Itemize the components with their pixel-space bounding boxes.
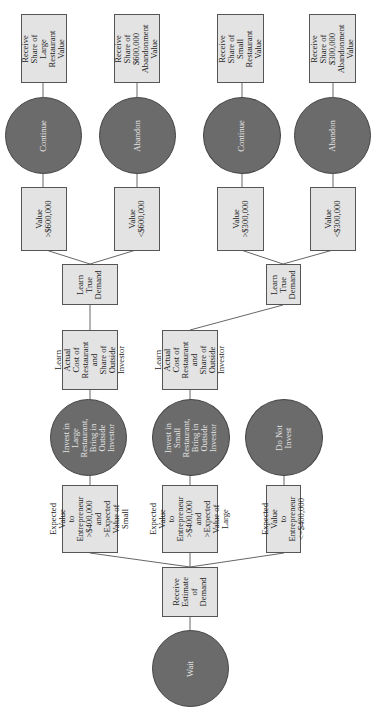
decision-label: Continue <box>237 120 246 152</box>
outcome-label: Receive Share of $300,000 Abandonment Va… <box>310 24 355 73</box>
outcome-600k-abandonment-value: Receive Share of $600,000 Abandonment Va… <box>114 14 160 83</box>
action-do-not-invest: Do Not Invest <box>245 399 323 476</box>
value-lt-600k: Value <$600,000 <box>114 187 160 251</box>
outcome-label: Receive Share of Large Restaurant Value <box>21 30 66 67</box>
learn-actual-cost-small: Learn Actual Cost of Restaurant and Shar… <box>162 330 218 390</box>
action-invest-large: Invest in Large Restaurant, Bring in Out… <box>50 399 127 476</box>
outcome-label: Receive Share of $600,000 Abandonment Va… <box>114 24 159 73</box>
info-label: Receive Estimate of Demand <box>172 577 208 607</box>
value-gt-600k: Value >$600,000 <box>21 187 67 251</box>
condition-label: Value >$300,000 <box>231 200 249 237</box>
decision-abandon-large: Abandon <box>99 97 176 174</box>
outcome-300k-abandonment-value: Receive Share of $300,000 Abandonment Va… <box>309 14 356 83</box>
condition-label: Value <$300,000 <box>324 200 342 237</box>
learn-true-demand-small: Learn True Demand <box>266 264 301 305</box>
action-invest-small: Invest in Small Restaurant, Bring in Out… <box>152 399 230 476</box>
root-label: Wait <box>186 660 195 676</box>
condition-label: Value >$600,000 <box>35 200 53 237</box>
decision-continue-large: Continue <box>5 97 82 174</box>
condition-label: Expected Value to Entrepreneur <=$400,00… <box>261 497 306 542</box>
learn-actual-cost-large: Learn Actual Cost of Restaurant and Shar… <box>62 330 118 390</box>
receive-estimate-of-demand: Receive Estimate of Demand <box>162 567 218 617</box>
decision-label: Continue <box>39 120 48 152</box>
decision-continue-small: Continue <box>203 97 281 174</box>
info-label: Learn True Demand <box>270 270 297 299</box>
condition-small: Expected Value to Entrepreneur >$400,000… <box>162 485 218 553</box>
condition-label: Expected Value to Entrepreneur >$400,000… <box>49 497 130 542</box>
decision-label: Abandon <box>328 120 337 152</box>
condition-label: Value <$600,000 <box>128 200 146 237</box>
info-label: Learn Actual Cost of Restaurant and Shar… <box>54 342 126 379</box>
decision-label: Abandon <box>133 120 142 152</box>
root-wait: Wait <box>152 630 229 707</box>
learn-true-demand-large: Learn True Demand <box>62 264 118 305</box>
info-label: Learn True Demand <box>76 270 103 299</box>
action-label: Invest in Small Restaurant, Bring in Out… <box>164 418 218 457</box>
condition-label: Expected Value to Entrepreneur >$400,000… <box>149 497 230 542</box>
value-lt-300k: Value <$300,000 <box>310 187 356 251</box>
condition-large: Expected Value to Entrepreneur >$400,000… <box>62 485 118 553</box>
condition-do-not-invest: Expected Value to Entrepreneur <=$400,00… <box>266 485 301 553</box>
info-label: Learn Actual Cost of Restaurant and Shar… <box>154 342 226 379</box>
outcome-large-restaurant-value: Receive Share of Large Restaurant Value <box>21 14 67 83</box>
action-label: Invest in Large Restaurant, Bring in Out… <box>61 418 115 457</box>
outcome-small-restaurant-value: Receive Share of Small Restaurant Value <box>217 14 264 83</box>
action-label: Do Not Invest <box>275 425 293 451</box>
decision-abandon-small: Abandon <box>294 97 371 174</box>
outcome-label: Receive Share of Small Restaurant Value <box>218 30 263 67</box>
value-gt-300k: Value >$300,000 <box>217 187 264 251</box>
